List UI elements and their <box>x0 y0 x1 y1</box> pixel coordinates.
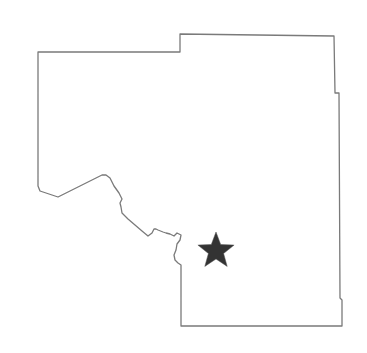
map-container <box>0 0 367 353</box>
region-outline <box>38 34 342 326</box>
county-map <box>0 0 367 353</box>
